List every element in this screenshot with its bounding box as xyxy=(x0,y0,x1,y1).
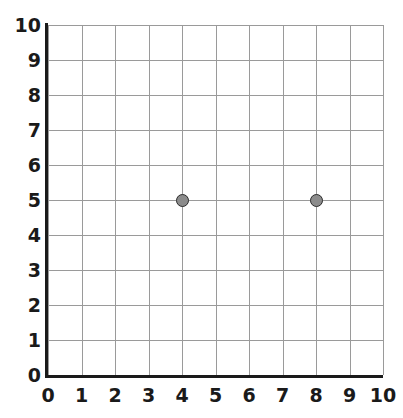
gridline-vertical xyxy=(283,25,284,375)
x-tick-label: 9 xyxy=(343,386,356,405)
data-point xyxy=(176,194,189,207)
x-tick-label: 1 xyxy=(75,386,88,405)
x-tick-label: 0 xyxy=(41,386,54,405)
x-tick-label: 6 xyxy=(242,386,255,405)
y-axis-tick-labels: 012345678910 xyxy=(0,0,41,418)
y-tick-label: 8 xyxy=(28,86,41,105)
x-tick-label: 3 xyxy=(142,386,155,405)
plot-area xyxy=(48,25,383,375)
x-tick-label: 2 xyxy=(108,386,121,405)
gridline-vertical xyxy=(82,25,83,375)
x-axis-tick-labels: 012345678910 xyxy=(0,386,403,416)
y-axis-spine xyxy=(45,23,48,378)
x-tick-label: 10 xyxy=(370,386,396,405)
gridline-vertical xyxy=(249,25,250,375)
x-tick-label: 5 xyxy=(209,386,222,405)
coordinate-plane-chart: 012345678910 012345678910 xyxy=(0,0,403,418)
y-tick-label: 0 xyxy=(28,366,41,385)
y-tick-label: 2 xyxy=(28,296,41,315)
gridline-vertical xyxy=(115,25,116,375)
y-tick-label: 1 xyxy=(28,331,41,350)
gridline-vertical xyxy=(149,25,150,375)
gridline-vertical xyxy=(383,25,384,375)
y-tick-label: 4 xyxy=(28,226,41,245)
x-axis-spine xyxy=(45,375,383,378)
y-tick-label: 3 xyxy=(28,261,41,280)
gridline-vertical xyxy=(48,25,49,375)
y-tick-label: 6 xyxy=(28,156,41,175)
x-tick-label: 7 xyxy=(276,386,289,405)
x-tick-label: 8 xyxy=(309,386,322,405)
x-tick-label: 4 xyxy=(175,386,188,405)
gridline-vertical xyxy=(216,25,217,375)
y-tick-label: 5 xyxy=(28,191,41,210)
y-tick-label: 9 xyxy=(28,51,41,70)
y-tick-label: 7 xyxy=(28,121,41,140)
gridline-vertical xyxy=(350,25,351,375)
data-point xyxy=(310,194,323,207)
y-tick-label: 10 xyxy=(15,16,41,35)
